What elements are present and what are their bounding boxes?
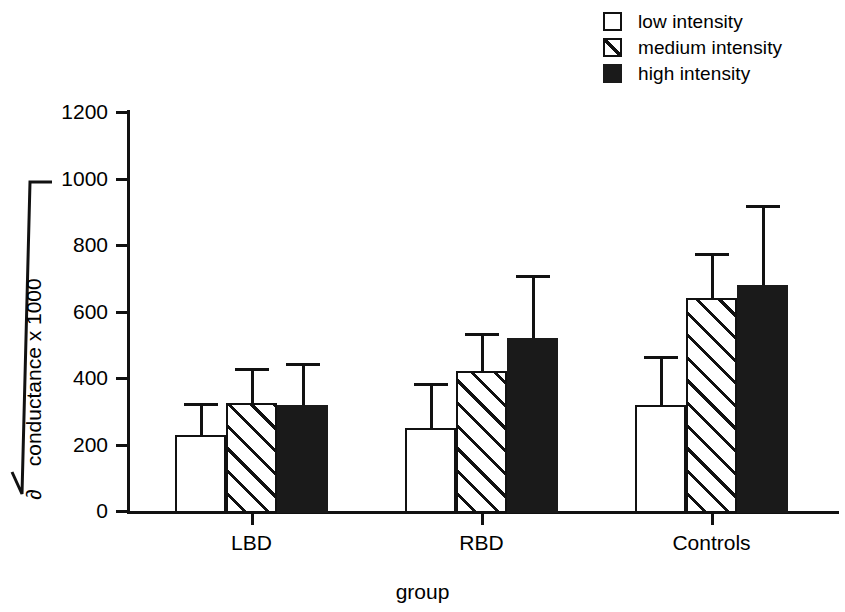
x-axis-title: group xyxy=(0,580,845,604)
error-bar-cap xyxy=(235,368,269,371)
bar-lbd-hatched xyxy=(226,403,277,513)
y-axis-title-label: conductance x 1000 xyxy=(22,278,45,466)
bar-lbd-solid xyxy=(277,405,328,513)
error-bar-stem xyxy=(481,333,484,371)
y-axis-title: ∂ conductance x 1000 xyxy=(0,170,112,500)
error-bar-stem xyxy=(430,383,433,428)
bar-controls-solid xyxy=(737,285,788,513)
x-axis-tick xyxy=(711,514,714,525)
error-bar-stem xyxy=(762,205,765,285)
error-bar-stem xyxy=(302,363,305,405)
bar-controls-hatched xyxy=(686,298,737,513)
y-axis-tick xyxy=(116,178,127,181)
bar-rbd-solid xyxy=(507,338,558,513)
error-bar-cap xyxy=(516,275,550,278)
y-axis-tick xyxy=(116,111,127,114)
y-axis-tick xyxy=(116,444,127,447)
y-axis-tick xyxy=(116,244,127,247)
error-bar-stem xyxy=(200,403,203,435)
bar-controls-open xyxy=(635,405,686,513)
error-bar-cap xyxy=(746,205,780,208)
bar-rbd-hatched xyxy=(456,371,507,513)
error-bar-cap xyxy=(695,253,729,256)
x-axis-group-label-lbd: LBD xyxy=(172,532,332,553)
error-bar-cap xyxy=(184,403,218,406)
y-axis-tick-label: 1200 xyxy=(18,101,108,122)
y-axis-tick xyxy=(116,510,127,513)
x-axis-tick xyxy=(481,514,484,525)
y-axis-title-symbol: ∂ xyxy=(22,490,45,500)
y-axis-title-text: ∂ conductance x 1000 xyxy=(22,170,66,500)
bar-rbd-open xyxy=(405,428,456,513)
y-axis-tick xyxy=(116,377,127,380)
error-bar-cap xyxy=(465,333,499,336)
y-axis-tick-label: 0 xyxy=(18,500,108,521)
chart-figure: low intensity medium intensity high inte… xyxy=(0,0,845,612)
y-axis-line xyxy=(127,110,130,513)
error-bar-stem xyxy=(251,368,254,403)
error-bar-cap xyxy=(644,356,678,359)
error-bar-stem xyxy=(711,253,714,298)
x-axis-tick xyxy=(251,514,254,525)
error-bar-cap xyxy=(286,363,320,366)
error-bar-stem xyxy=(532,275,535,338)
plot-area: 020040060080010001200 ∂ conductance x 10… xyxy=(0,0,845,612)
bar-lbd-open xyxy=(175,435,226,513)
x-axis-group-label-controls: Controls xyxy=(632,532,792,553)
error-bar-cap xyxy=(414,383,448,386)
x-axis-group-label-rbd: RBD xyxy=(402,532,562,553)
y-axis-tick xyxy=(116,311,127,314)
error-bar-stem xyxy=(660,356,663,404)
